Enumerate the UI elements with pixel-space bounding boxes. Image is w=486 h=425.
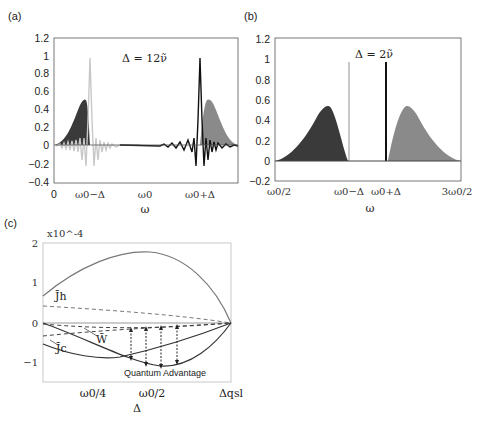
svg-text:0: 0 xyxy=(51,188,57,200)
jh-dashed-curve xyxy=(43,306,231,323)
svg-text:0.6: 0.6 xyxy=(255,94,270,106)
arrow-heads xyxy=(129,324,179,369)
svg-text:−0.2: −0.2 xyxy=(28,158,49,170)
w-label: W̄ xyxy=(96,333,108,346)
svg-text:0.8: 0.8 xyxy=(255,74,270,86)
svg-text:ω0+Δ: ω0+Δ xyxy=(371,186,401,197)
quantum-advantage-label: Quantum Advantage xyxy=(124,368,206,378)
svg-text:1: 1 xyxy=(32,277,38,288)
svg-text:−1: −1 xyxy=(23,357,38,368)
svg-text:0.4: 0.4 xyxy=(34,103,49,115)
svg-text:ω0−Δ: ω0−Δ xyxy=(75,189,105,200)
x-ticks-b: ω0/2 ω0−Δ ω0+Δ 3ω0/2 xyxy=(267,186,472,197)
svg-text:ω0−Δ: ω0−Δ xyxy=(334,186,364,197)
svg-text:3ω0/2: 3ω0/2 xyxy=(442,186,473,197)
panel-label-c: (c) xyxy=(4,217,17,229)
jh-label: J̄h xyxy=(54,290,67,303)
svg-text:0.2: 0.2 xyxy=(34,121,49,133)
svg-text:0: 0 xyxy=(264,155,270,167)
svg-text:0.2: 0.2 xyxy=(255,135,270,147)
scale-label-c: x10^-4 xyxy=(47,228,83,239)
svg-text:ω0: ω0 xyxy=(138,189,153,200)
panel-label-b: (b) xyxy=(244,10,257,22)
svg-text:−0.4: −0.4 xyxy=(28,176,49,188)
svg-text:1.2: 1.2 xyxy=(255,33,270,45)
cold-spectrum-area-b xyxy=(275,106,348,161)
y-ticks-a: −0.4 −0.2 0 0.2 0.4 0.6 0.8 1 1.2 xyxy=(28,32,49,188)
y-ticks-b: −0.2 0 0.2 0.4 0.6 0.8 1 1.2 xyxy=(249,33,270,187)
x-ticks-a: 0 ω0−Δ ω0 ω0+Δ xyxy=(51,188,215,200)
svg-text:0: 0 xyxy=(43,139,49,151)
panel-a: (a) −0.4 −0.2 0 0.2 0.4 0.6 0.8 1 1.2 0 … xyxy=(8,10,238,216)
annotation-b: Δ = 2ν̃ xyxy=(355,48,393,61)
svg-text:ω0/2: ω0/2 xyxy=(267,186,291,197)
w-solid-curve xyxy=(43,323,231,366)
svg-text:ω0+Δ: ω0+Δ xyxy=(185,189,215,200)
x-label-b: ω xyxy=(366,202,375,215)
panel-c: (c) x10^-4 J̄h J̄c W̄ xyxy=(4,217,244,415)
figure-canvas: (a) −0.4 −0.2 0 0.2 0.4 0.6 0.8 1 1.2 0 … xyxy=(0,0,486,425)
filter-light-curve xyxy=(56,58,140,166)
panel-label-a: (a) xyxy=(8,10,21,22)
svg-text:1: 1 xyxy=(264,53,270,65)
svg-text:1.2: 1.2 xyxy=(34,32,49,44)
x-label-a: ω xyxy=(141,203,150,216)
annotation-a: Δ = 12ν̃ xyxy=(122,52,167,65)
svg-text:0.6: 0.6 xyxy=(34,85,49,97)
panel-b: (b) −0.2 0 0.2 0.4 0.6 0.8 1 1.2 ω0/2 ω0… xyxy=(244,10,472,215)
svg-text:1: 1 xyxy=(43,50,49,62)
x-label-c: Δ xyxy=(133,402,141,415)
filter-dark-curve xyxy=(120,58,238,166)
svg-text:Δqsl: Δqsl xyxy=(219,387,244,400)
svg-text:ω0/4: ω0/4 xyxy=(80,387,107,400)
svg-text:0.8: 0.8 xyxy=(34,67,49,79)
hot-spectrum-area-b xyxy=(388,106,461,161)
svg-text:0.4: 0.4 xyxy=(255,114,270,126)
svg-text:ω0/2: ω0/2 xyxy=(139,387,166,400)
y-ticks-c: −1 0 1 2 xyxy=(23,238,38,368)
x-ticks-c: ω0/4 ω0/2 Δqsl xyxy=(80,387,244,400)
w-dashed-curve xyxy=(43,323,231,328)
svg-text:2: 2 xyxy=(32,238,38,249)
svg-text:0: 0 xyxy=(32,318,38,329)
